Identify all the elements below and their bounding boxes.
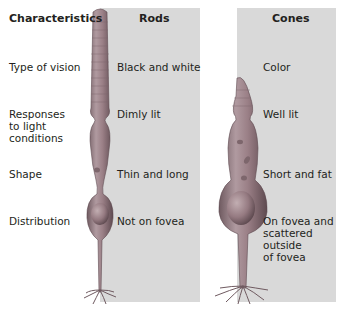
header-cones: Cones bbox=[272, 13, 309, 25]
cone-cell-icon bbox=[215, 77, 268, 304]
rods-type-of-vision: Black and white bbox=[117, 61, 201, 73]
row-label-type-of-vision: Type of vision bbox=[9, 61, 81, 73]
cones-shape: Short and fat bbox=[263, 168, 332, 180]
row-label-distribution: Distribution bbox=[9, 215, 70, 227]
rods-shape: Thin and long bbox=[117, 168, 189, 180]
header-characteristics: Characteristics bbox=[9, 13, 102, 25]
header-rods: Rods bbox=[139, 13, 169, 25]
rod-cell-icon bbox=[84, 9, 116, 304]
cones-distribution: On fovea and scattered outside of fovea bbox=[263, 215, 334, 263]
row-label-shape: Shape bbox=[9, 168, 42, 180]
cones-type-of-vision: Color bbox=[263, 61, 290, 73]
rods-responses: Dimly lit bbox=[117, 108, 161, 120]
row-label-responses: Responses to light conditions bbox=[9, 108, 65, 144]
photoreceptor-illustrations bbox=[0, 0, 343, 312]
cones-responses: Well lit bbox=[263, 108, 298, 120]
rods-distribution: Not on fovea bbox=[117, 215, 184, 227]
